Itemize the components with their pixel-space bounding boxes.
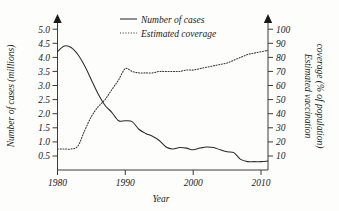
y-axis-right-tick-labels: 100 90 80 70 60 50 40 30 20 10 (275, 25, 291, 162)
y-axis-right-ticks (268, 29, 273, 156)
y-tick-label: 3.5 (37, 67, 50, 77)
y-axis-right-title-line1: Estimated vaccination (303, 53, 313, 139)
y2-tick-label: 100 (276, 25, 291, 35)
y-axis-right-arrow-icon (264, 14, 272, 23)
y-tick-label: 1.5 (38, 123, 50, 133)
y-tick-label: 1.0 (38, 137, 50, 147)
y2-tick-label: 40 (276, 109, 286, 119)
y2-tick-label: 50 (276, 95, 286, 105)
y-axis-left-ticks (53, 29, 58, 156)
y2-tick-label: 70 (276, 67, 286, 77)
chart-canvas: 5.0 4.5 4.0 3.5 3.0 2.5 2.0 1.5 1.0 0.5 (0, 0, 339, 211)
y2-tick-label: 20 (276, 137, 286, 147)
y2-tick-label: 10 (276, 151, 286, 161)
legend: Number of cases Estimated coverage (120, 15, 216, 39)
x-axis-title: Year (152, 194, 169, 204)
y-axis-left-tick-labels: 5.0 4.5 4.0 3.5 3.0 2.5 2.0 1.5 1.0 0.5 (37, 25, 50, 162)
x-tick-label: 2000 (184, 178, 203, 188)
legend-label-number-of-cases: Number of cases (140, 15, 205, 25)
y-tick-label: 4.0 (38, 53, 50, 63)
y2-tick-label: 90 (276, 39, 286, 49)
y-tick-label: 3.0 (37, 81, 50, 91)
y-tick-label: 4.5 (38, 39, 50, 49)
chart-figure: 5.0 4.5 4.0 3.5 3.0 2.5 2.0 1.5 1.0 0.5 (0, 0, 339, 211)
x-axis-ticks (58, 170, 262, 175)
y-tick-label: 2.0 (38, 109, 50, 119)
y-axis-left-title: Number of cases (millions) (6, 45, 17, 149)
x-axis-tick-labels: 1980 1990 2000 2010 (48, 178, 271, 188)
series-line-estimated-coverage (58, 50, 268, 149)
y-tick-label: 0.5 (38, 151, 50, 161)
y-tick-label: 5.0 (38, 25, 50, 35)
y-axis-right-title-line2: coverage (% of population) (314, 44, 325, 149)
x-tick-label: 1980 (48, 178, 67, 188)
y-axis-left-arrow-icon (53, 14, 61, 23)
y2-tick-label: 80 (276, 53, 286, 63)
y2-tick-label: 30 (275, 123, 286, 133)
y2-tick-label: 60 (276, 81, 286, 91)
series-line-number-of-cases (58, 46, 268, 162)
x-tick-label: 1990 (116, 178, 135, 188)
x-tick-label: 2010 (252, 178, 271, 188)
plot-area (58, 46, 268, 162)
y-tick-label: 2.5 (38, 95, 50, 105)
legend-label-estimated-coverage: Estimated coverage (140, 29, 216, 39)
